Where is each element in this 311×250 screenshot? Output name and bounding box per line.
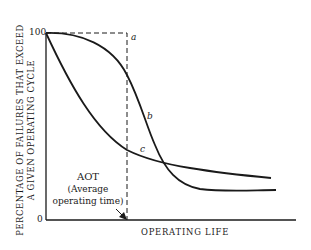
aot-subtitle-line1: (Average xyxy=(52,183,124,195)
y-tick-0: 0 xyxy=(37,214,43,224)
aot-subtitle-line2: operating time) xyxy=(52,195,124,207)
curve-label-a: a xyxy=(131,32,136,42)
aot-title: AOT xyxy=(52,171,124,183)
x-axis-label: OPERATING LIFE xyxy=(141,227,229,237)
aot-annotation: AOT (Average operating time) xyxy=(52,171,124,207)
curve-b xyxy=(46,33,276,191)
curve-label-c: c xyxy=(140,144,145,154)
y-axis-label-line2: A GIVEN OPERATING CYCLE xyxy=(26,24,37,236)
y-axis-label-line1: PERCENTAGE OF FAILURES THAT EXCEED xyxy=(15,24,26,236)
y-axis-label: PERCENTAGE OF FAILURES THAT EXCEED A GIV… xyxy=(6,40,46,220)
chart-plot xyxy=(0,0,311,250)
y-tick-100: 100 xyxy=(29,27,46,37)
curve-c xyxy=(46,33,271,178)
curve-label-b: b xyxy=(147,111,153,121)
